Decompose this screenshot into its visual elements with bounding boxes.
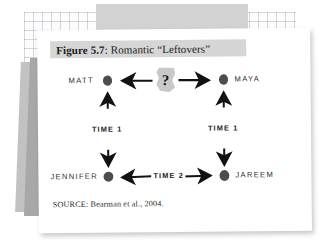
figure-title: Figure 5.7: Romantic “Leftovers” (56, 42, 210, 55)
edge-label-time1-right: TIME 1 (206, 123, 241, 132)
node-dot-jennifer (103, 172, 113, 182)
edge-label-time1-left: TIME 1 (90, 124, 125, 133)
arrow-q-to-maya (179, 80, 209, 81)
figure-screenshot: Figure 5.7: Romantic “Leftovers” (0, 0, 336, 251)
figure-source: SOURCE: Bearman et al., 2004. (53, 199, 164, 209)
question-mark-icon: ? (155, 68, 176, 94)
node-dot-jareem (219, 170, 229, 181)
figure-title-rest: : Romantic “Leftovers” (105, 42, 211, 55)
relationship-diagram: ? MATT MAYA JENNIFER JAREEM TIME 1 TIME … (37, 58, 311, 201)
arrow-q-to-matt (123, 80, 153, 81)
node-label-jennifer: JENNIFER (50, 172, 98, 181)
figure-number: Figure 5.7 (56, 43, 105, 55)
node-dot-matt (103, 75, 112, 85)
node-label-maya: MAYA (234, 74, 260, 83)
node-label-jareem: JAREEM (235, 170, 274, 179)
gray-sheet-top (96, 4, 248, 30)
arrow-jareem-to-jennifer (122, 176, 151, 177)
figure-card: Figure 5.7: Romantic “Leftovers” (37, 28, 312, 234)
node-label-matt: MATT (68, 76, 93, 85)
figure-title-bar: Figure 5.7: Romantic “Leftovers” (50, 39, 246, 58)
edge-label-time2: TIME 2 (151, 171, 186, 180)
node-dot-maya (219, 74, 228, 84)
